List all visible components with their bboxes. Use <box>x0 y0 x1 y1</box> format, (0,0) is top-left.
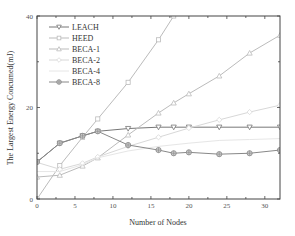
y-tick-label: 0 <box>30 196 34 204</box>
legend-label: HEED <box>72 34 94 43</box>
series-heed <box>35 14 176 201</box>
legend-label: BECA-8 <box>72 78 100 87</box>
legend-label: BECA-1 <box>72 45 100 54</box>
x-tick-label: 25 <box>223 202 231 210</box>
axes-frame <box>37 16 280 199</box>
y-tick-label: 40 <box>26 13 34 21</box>
line-chart: 05101520253002040 LEACHHEEDBECA-1BECA-2B… <box>0 0 295 236</box>
legend: LEACHHEEDBECA-1BECA-2BECA-4BECA-8 <box>49 23 100 87</box>
legend-item-heed: HEED <box>49 34 94 43</box>
x-tick-label: 5 <box>73 202 77 210</box>
x-tick-label: 20 <box>185 202 193 210</box>
x-tick-label: 0 <box>35 202 39 210</box>
series-beca-4 <box>37 139 280 172</box>
legend-item-beca-1: BECA-1 <box>49 45 100 54</box>
y-tick-label: 20 <box>26 104 34 112</box>
y-axis-title: The Largest Energy Concumed(mJ) <box>6 50 15 165</box>
axes: 05101520253002040 <box>26 13 280 211</box>
legend-item-beca-2: BECA-2 <box>49 56 100 65</box>
x-tick-label: 15 <box>147 202 155 210</box>
legend-item-beca-4: BECA-4 <box>49 67 100 76</box>
legend-item-beca-8: BECA-8 <box>49 78 100 87</box>
series-beca-1 <box>34 33 282 180</box>
legend-label: BECA-2 <box>72 56 100 65</box>
x-axis-title: Number of Nodes <box>129 218 186 227</box>
legend-label: LEACH <box>72 23 99 32</box>
legend-label: BECA-4 <box>72 67 100 76</box>
x-tick-label: 30 <box>261 202 269 210</box>
series-leach <box>34 125 282 164</box>
x-tick-label: 10 <box>109 202 117 210</box>
legend-item-leach: LEACH <box>49 23 99 32</box>
